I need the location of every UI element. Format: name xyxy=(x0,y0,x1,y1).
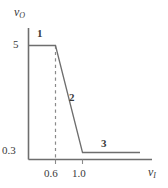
x-tick-label-1-0: 1.0 xyxy=(72,168,86,179)
plot-canvas xyxy=(0,0,168,188)
segment-label-2: 2 xyxy=(69,92,75,103)
y-axis-title-subscript: O xyxy=(19,11,25,20)
x-axis-title-subscript: I xyxy=(153,171,156,180)
x-tick-label-0-6: 0.6 xyxy=(44,168,58,179)
x-axis-title: vI xyxy=(148,166,156,178)
segment-label-3: 3 xyxy=(101,138,107,149)
voltage-transfer-characteristic-figure: vO vI 5 0.3 0.6 1.0 1 2 3 xyxy=(0,0,168,188)
segment-label-1: 1 xyxy=(37,28,43,39)
transfer-curve xyxy=(29,46,141,153)
y-tick-label-0-3: 0.3 xyxy=(2,145,16,156)
y-axis-title: vO xyxy=(14,6,25,18)
y-tick-label-5: 5 xyxy=(13,39,19,50)
